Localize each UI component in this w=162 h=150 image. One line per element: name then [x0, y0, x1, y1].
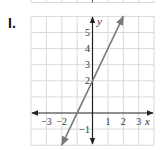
- svg-text:2: 2: [121, 116, 126, 127]
- svg-text:5: 5: [85, 27, 90, 38]
- svg-text:−1: −1: [79, 124, 90, 135]
- svg-text:−2: −2: [56, 116, 67, 127]
- item-label: I.: [8, 15, 16, 31]
- x-tick-labels: −3 −2 1 2 3: [41, 116, 141, 127]
- x-axis-label: x: [144, 115, 150, 127]
- svg-text:3: 3: [136, 116, 141, 127]
- svg-text:1: 1: [105, 116, 110, 127]
- svg-text:3: 3: [85, 59, 90, 70]
- svg-text:−3: −3: [41, 116, 52, 127]
- previous-graph-fragment: [31, 0, 154, 3]
- svg-text:4: 4: [85, 43, 90, 54]
- svg-text:2: 2: [85, 75, 90, 86]
- coordinate-plane: y x −3 −2 1 2 3 5 4 3 2 −1: [0, 0, 162, 150]
- y-axis-label: y: [96, 15, 102, 27]
